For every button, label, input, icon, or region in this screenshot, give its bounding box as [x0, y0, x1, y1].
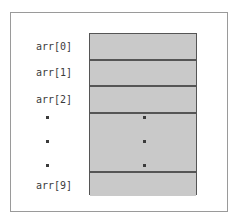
array-index-label-1: arr[1] — [36, 67, 88, 78]
array-cells-container — [89, 33, 197, 195]
ellipsis-left — [46, 116, 49, 167]
ellipsis-dot — [143, 140, 146, 143]
array-cell-9 — [90, 173, 196, 196]
ellipsis-dot — [46, 116, 49, 119]
ellipsis-inner — [143, 116, 146, 167]
ellipsis-dot — [46, 164, 49, 167]
ellipsis-dot — [46, 140, 49, 143]
ellipsis-dot — [143, 164, 146, 167]
array-index-label-2: arr[2] — [36, 94, 88, 105]
array-index-label-0: arr[0] — [36, 41, 88, 52]
array-cell-2 — [90, 87, 196, 114]
array-cell-0 — [90, 34, 196, 61]
ellipsis-dot — [143, 116, 146, 119]
array-cell-1 — [90, 61, 196, 87]
array-diagram: arr[0] arr[1] arr[2] arr[9] — [0, 0, 241, 224]
array-index-label-9: arr[9] — [36, 180, 88, 191]
